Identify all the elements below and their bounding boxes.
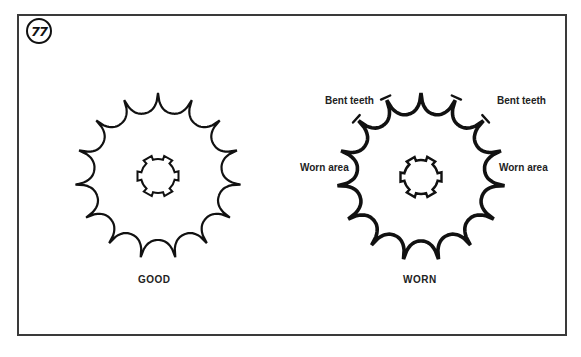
good-sprocket-outline xyxy=(76,93,241,257)
bent-tooth-mark xyxy=(452,96,461,100)
bent-tooth-mark xyxy=(381,96,390,100)
caption-worn: WORN xyxy=(403,274,437,285)
caption-good: GOOD xyxy=(138,274,171,285)
worn-sprocket-hub xyxy=(401,157,442,197)
callout-worn-area-left: Worn area xyxy=(300,162,349,173)
callout-bent-teeth-left: Bent teeth xyxy=(325,95,374,106)
worn-sprocket-outline xyxy=(338,93,505,259)
callout-worn-area-right: Worn area xyxy=(499,162,548,173)
good-sprocket xyxy=(76,93,241,257)
worn-sprocket xyxy=(338,93,505,259)
callout-bent-teeth-right: Bent teeth xyxy=(497,95,546,106)
sprocket-illustration xyxy=(0,0,581,357)
good-sprocket-hub xyxy=(138,156,179,196)
